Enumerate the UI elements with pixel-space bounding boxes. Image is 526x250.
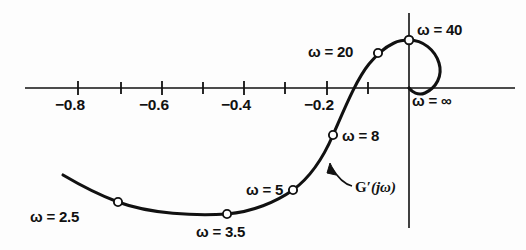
curve-label-g-prime-j-omega: G′(jω) (355, 180, 396, 195)
tick-label-neg-0.6: −0.6 (139, 97, 169, 113)
annotation-omega-40: ω = 40 (417, 22, 462, 37)
annotation-omega-8: ω = 8 (342, 128, 379, 143)
tick-label-neg-0.2: −0.2 (304, 97, 334, 113)
annotation-omega-20: ω = 20 (308, 44, 353, 59)
nyquist-plot-figure: −0.8 −0.6 −0.4 −0.2 ω = 2.5 ω = 3.5 ω = … (0, 0, 526, 250)
marker-omega-20 (374, 49, 382, 57)
marker-omega-40 (405, 36, 414, 45)
marker-omega-3.5 (223, 210, 231, 218)
annotation-omega-2.5: ω = 2.5 (30, 209, 79, 224)
curve-label-leader (332, 168, 352, 186)
annotation-omega-3.5: ω = 3.5 (196, 224, 245, 239)
marker-omega-2.5 (114, 198, 122, 206)
marker-omega-5 (289, 186, 297, 194)
tick-label-neg-0.4: −0.4 (221, 97, 251, 113)
curve-label-arrowhead (327, 163, 336, 175)
curve-label-arg: (jω) (371, 179, 396, 195)
annotation-omega-infinity: ω = ∞ (412, 93, 451, 108)
curve-label-g: G (355, 179, 367, 195)
tick-label-neg-0.8: −0.8 (55, 97, 85, 113)
marker-omega-8 (329, 131, 337, 139)
annotation-omega-5: ω = 5 (246, 182, 283, 197)
